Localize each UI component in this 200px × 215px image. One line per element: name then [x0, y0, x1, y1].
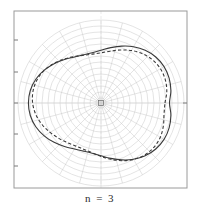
- polar-plot-figure: [0, 0, 200, 215]
- figure-caption: n = 3: [0, 192, 200, 204]
